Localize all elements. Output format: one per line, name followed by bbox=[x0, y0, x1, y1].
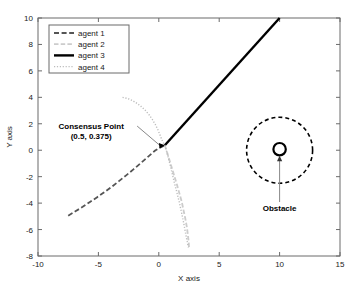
y-tick-label: 8 bbox=[29, 40, 34, 49]
y-tick-label: 4 bbox=[29, 93, 34, 102]
annotation-label: Consensus Point bbox=[58, 122, 124, 131]
legend-label: agent 1 bbox=[78, 29, 105, 38]
x-tick-label: 5 bbox=[217, 260, 222, 269]
y-tick-label: 10 bbox=[24, 14, 33, 23]
y-tick-label: 6 bbox=[29, 67, 34, 76]
agent-trajectory-plot: -10-5051015 -8-6-4-20246810 X axis Y axi… bbox=[0, 0, 355, 292]
y-tick-label: -2 bbox=[26, 173, 34, 182]
legend-label: agent 4 bbox=[78, 63, 105, 72]
y-tick-label: 2 bbox=[29, 120, 34, 129]
x-tick-label: -10 bbox=[32, 260, 44, 269]
chart-legend[interactable]: agent 1agent 2agent 3agent 4 bbox=[49, 25, 129, 73]
x-tick-label: 15 bbox=[336, 260, 345, 269]
legend-label: agent 2 bbox=[78, 40, 105, 49]
chart-figure: -10-5051015 -8-6-4-20246810 X axis Y axi… bbox=[0, 0, 355, 292]
y-tick-label: -8 bbox=[26, 252, 34, 261]
x-tick-label: -5 bbox=[95, 260, 103, 269]
y-tick-label: 0 bbox=[29, 146, 34, 155]
annotation-label: Obstacle bbox=[263, 204, 297, 213]
x-axis-title: X axis bbox=[178, 274, 200, 283]
annotation-sublabel: (0.5, 0.375) bbox=[71, 132, 112, 141]
x-tick-label: 0 bbox=[157, 260, 162, 269]
y-tick-label: -4 bbox=[26, 199, 34, 208]
y-tick-label: -6 bbox=[26, 226, 34, 235]
y-axis-title: Y axis bbox=[5, 126, 14, 148]
legend-label: agent 3 bbox=[78, 51, 105, 60]
x-tick-label: 10 bbox=[275, 260, 284, 269]
